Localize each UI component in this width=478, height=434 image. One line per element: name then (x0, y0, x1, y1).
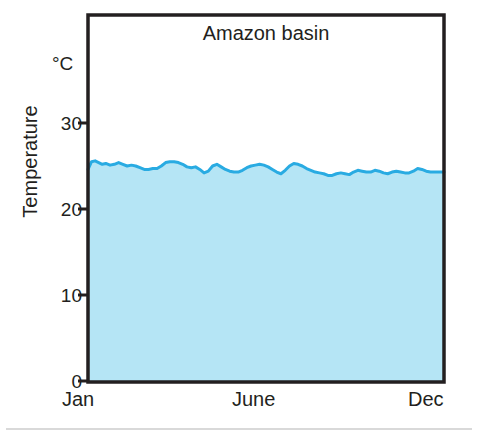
page-bottom-rule (6, 428, 472, 430)
data-area-group (88, 161, 444, 381)
temperature-area-fill (88, 161, 444, 381)
plot-area (0, 0, 478, 434)
temperature-chart-figure: Temperature °C Amazon basin 30 20 10 0 J… (0, 0, 478, 434)
